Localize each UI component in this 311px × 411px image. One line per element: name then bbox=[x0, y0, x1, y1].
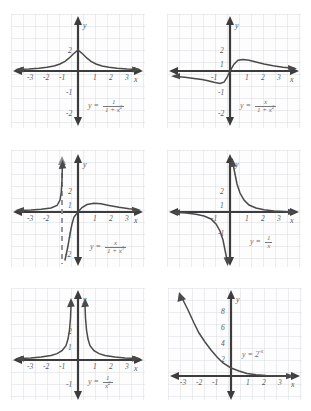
svg-text:-3: -3 bbox=[27, 73, 33, 82]
function-graph-sheet: -3 -2 -1 1 2 3 2 -1 -2 x y y = 1 1 + x2 bbox=[0, 0, 311, 411]
svg-text:-1: -1 bbox=[66, 88, 72, 97]
svg-text:x: x bbox=[289, 216, 294, 225]
svg-text:1: 1 bbox=[220, 60, 224, 69]
svg-text:-3: -3 bbox=[27, 362, 33, 371]
svg-text:2: 2 bbox=[262, 378, 266, 387]
svg-text:3: 3 bbox=[276, 214, 281, 223]
svg-text:-3: -3 bbox=[180, 378, 186, 387]
svg-text:1: 1 bbox=[68, 231, 72, 240]
svg-text:2: 2 bbox=[109, 214, 113, 223]
svg-text:y: y bbox=[234, 160, 239, 169]
graph-panel-6: -3 -2 -1 1 2 3 8 6 4 2 x y y = 2-x bbox=[156, 280, 311, 411]
plot-area-3: -3 -2 1 2 3 2 1 1 -2 x y bbox=[11, 150, 145, 267]
graph-panel-1: -3 -2 -1 1 2 3 2 -1 -2 x y y = 1 1 + x2 bbox=[0, 0, 156, 140]
svg-text:-2: -2 bbox=[65, 250, 71, 259]
svg-text:3: 3 bbox=[124, 362, 129, 371]
graph-svg-4: -1 1 2 3 2 1 -1 x y bbox=[167, 150, 301, 267]
svg-text:1: 1 bbox=[93, 214, 97, 223]
svg-text:1: 1 bbox=[220, 201, 224, 210]
svg-text:-1: -1 bbox=[59, 362, 65, 371]
svg-text:3: 3 bbox=[124, 73, 129, 82]
svg-text:3: 3 bbox=[124, 214, 129, 223]
plot-area-1: -3 -2 -1 1 2 3 2 -1 -2 x y bbox=[11, 14, 145, 128]
plot-area-6: -3 -2 -1 1 2 3 8 6 4 2 x y bbox=[168, 288, 302, 400]
svg-text:x: x bbox=[289, 75, 294, 84]
svg-text:-2: -2 bbox=[43, 362, 49, 371]
svg-text:y: y bbox=[235, 295, 240, 304]
plot-area-5: -3 -2 -1 1 2 3 2 1 -1 x y bbox=[11, 288, 145, 400]
plot-area-4: -1 1 2 3 2 1 -1 x y bbox=[167, 150, 301, 267]
svg-text:2: 2 bbox=[68, 187, 72, 196]
svg-text:y: y bbox=[82, 21, 87, 30]
svg-text:2: 2 bbox=[261, 73, 265, 82]
gridlines bbox=[168, 288, 302, 400]
svg-text:4: 4 bbox=[221, 339, 225, 348]
svg-text:-2: -2 bbox=[66, 109, 72, 118]
svg-text:3: 3 bbox=[277, 378, 282, 387]
svg-text:2: 2 bbox=[221, 355, 225, 364]
svg-text:2: 2 bbox=[68, 46, 72, 55]
svg-text:1: 1 bbox=[245, 73, 249, 82]
svg-text:-1: -1 bbox=[66, 380, 72, 389]
graph-panel-3: -3 -2 1 2 3 2 1 1 -2 x y y = x 1 + x3 bbox=[0, 140, 156, 280]
svg-text:1: 1 bbox=[245, 214, 249, 223]
svg-text:-2: -2 bbox=[196, 378, 202, 387]
svg-text:2: 2 bbox=[109, 362, 113, 371]
graph-panel-2: -1 1 2 3 2 1 -1 -2 x y y = x 1 + x2 bbox=[156, 0, 311, 140]
svg-text:-1: -1 bbox=[211, 73, 217, 82]
svg-text:-1: -1 bbox=[218, 229, 224, 238]
graph-svg-2: -1 1 2 3 2 1 -1 -2 x y bbox=[167, 14, 301, 128]
svg-text:3: 3 bbox=[276, 73, 281, 82]
svg-text:1: 1 bbox=[93, 362, 97, 371]
graph-svg-6: -3 -2 -1 1 2 3 8 6 4 2 x y bbox=[168, 288, 302, 400]
svg-text:2: 2 bbox=[261, 214, 265, 223]
graph-panel-4: -1 1 2 3 2 1 -1 x y y = 1 x bbox=[156, 140, 311, 280]
svg-text:2: 2 bbox=[220, 187, 224, 196]
graph-panel-5: -3 -2 -1 1 2 3 2 1 -1 x y y = 1 x2 bbox=[0, 280, 156, 411]
graph-svg-1: -3 -2 -1 1 2 3 2 -1 -2 x y bbox=[11, 14, 145, 128]
svg-text:6: 6 bbox=[221, 323, 225, 332]
svg-text:1: 1 bbox=[68, 201, 72, 210]
svg-text:-3: -3 bbox=[27, 214, 33, 223]
svg-text:x: x bbox=[133, 216, 138, 225]
svg-text:-2: -2 bbox=[218, 109, 224, 118]
svg-text:-1: -1 bbox=[211, 214, 217, 223]
graph-svg-3: -3 -2 1 2 3 2 1 1 -2 x y bbox=[11, 150, 145, 267]
svg-text:y: y bbox=[234, 21, 239, 30]
svg-text:2: 2 bbox=[109, 73, 113, 82]
svg-text:x: x bbox=[290, 380, 295, 389]
svg-text:-1: -1 bbox=[218, 88, 224, 97]
graph-svg-5: -3 -2 -1 1 2 3 2 1 -1 x y bbox=[11, 288, 145, 400]
svg-text:2: 2 bbox=[220, 46, 224, 55]
svg-text:y: y bbox=[82, 295, 87, 304]
svg-text:-2: -2 bbox=[43, 214, 49, 223]
plot-area-2: -1 1 2 3 2 1 -1 -2 x y bbox=[167, 14, 301, 128]
svg-text:1: 1 bbox=[93, 73, 97, 82]
svg-text:x: x bbox=[133, 364, 138, 373]
svg-text:2: 2 bbox=[68, 327, 72, 336]
svg-text:-1: -1 bbox=[212, 378, 218, 387]
svg-text:8: 8 bbox=[221, 307, 225, 316]
svg-text:1: 1 bbox=[68, 343, 72, 352]
svg-text:-1: -1 bbox=[59, 73, 65, 82]
svg-text:-2: -2 bbox=[43, 73, 49, 82]
svg-text:1: 1 bbox=[246, 378, 250, 387]
svg-text:y: y bbox=[82, 160, 87, 169]
svg-text:x: x bbox=[133, 75, 138, 84]
